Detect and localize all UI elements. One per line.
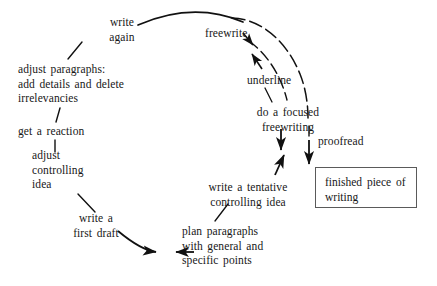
node-adjust-controlling-idea: adjust controlling idea xyxy=(32,148,102,192)
connector-adjust-paragraphs-to-get-a-reaction xyxy=(56,108,60,122)
node-underline: underline xyxy=(247,73,313,88)
arc-inner-right-descending xyxy=(249,41,287,100)
arrow-tentative-idea-up xyxy=(275,155,284,175)
node-write-tentative-controlling-idea: write a tentative controlling idea xyxy=(196,180,300,209)
connector-write-again-to-adjust-paragraphs xyxy=(68,42,82,59)
connector-underline-to-focused-freewriting xyxy=(265,88,272,102)
arrow-underline-to-freewrite xyxy=(252,54,262,69)
node-freewrite: freewrite xyxy=(205,26,267,41)
node-proofread: proofread xyxy=(318,134,384,149)
finished-piece-label: finished piece of writing xyxy=(325,175,406,205)
node-get-a-reaction: get a reaction xyxy=(18,124,113,139)
node-write-first-draft: write a first draft xyxy=(58,211,134,240)
node-do-a-focused-freewriting: do a focused freewriting xyxy=(245,105,331,134)
writing-process-diagram: write again adjust paragraphs: add detai… xyxy=(0,0,437,286)
node-plan-paragraphs: plan paragraphs with general and specifi… xyxy=(182,224,294,268)
node-write-again: write again xyxy=(93,15,151,44)
arc-write-again-to-freewrite xyxy=(138,12,243,25)
finished-piece-box: finished piece of writing xyxy=(315,167,417,208)
connector-controlling-idea-to-first-draft xyxy=(78,194,95,212)
node-adjust-paragraphs: adjust paragraphs: add details and delet… xyxy=(18,62,163,106)
